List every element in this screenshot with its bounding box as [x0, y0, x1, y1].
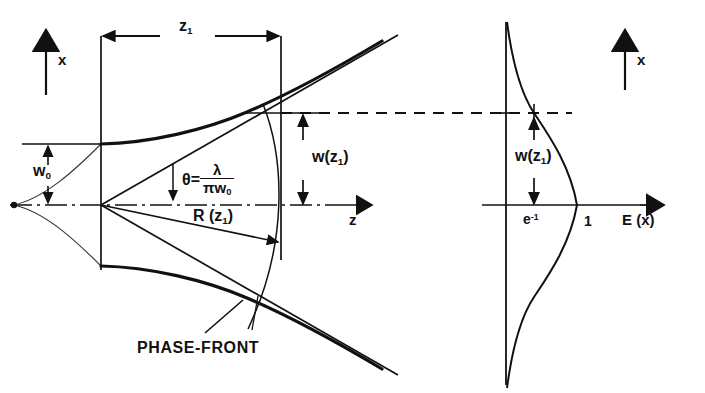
divergence-asymptote-upper: [101, 35, 398, 205]
radius-of-curvature-arrow: [101, 205, 278, 242]
e-inverse-exponent: -1: [531, 212, 539, 222]
w-z1-left-main: w(z: [312, 148, 338, 165]
radius-label-tail: ): [228, 207, 233, 224]
optical-axis: [10, 202, 372, 208]
w-z1-left-sub: 1: [338, 156, 344, 167]
profile-x-axis-label: x: [637, 52, 645, 67]
w-z1-label-right: w(z1): [515, 148, 552, 164]
divergence-numerator: λ: [200, 162, 234, 178]
z1-dimension-label: z1: [179, 18, 193, 34]
w-z1-right-sub: 1: [541, 155, 547, 166]
radius-label-main: R (z: [193, 207, 222, 224]
divergence-equation: θ= λ πw0: [182, 163, 234, 197]
w0-label-sub: 0: [45, 170, 51, 181]
beam-envelope-upper: [101, 41, 382, 144]
w0-label-main: w: [33, 162, 45, 179]
e-inverse-base: e: [523, 211, 531, 227]
radius-of-curvature-label: R (z1): [193, 208, 233, 224]
w0-label: w0: [33, 163, 51, 179]
phase-front-leader-1: [205, 300, 243, 333]
figure-linework: [0, 0, 705, 393]
waist-tail-lower: [14, 205, 101, 266]
radius-label-sub: 1: [222, 215, 228, 226]
divergence-denominator-main: πw: [203, 179, 226, 196]
z1-label-main: z: [179, 17, 187, 34]
z1-label-sub: 1: [187, 25, 193, 36]
divergence-fraction: λ πw0: [200, 162, 234, 196]
e-inverse-tick-label: e-1: [523, 212, 539, 226]
w-z1-right-main: w(z: [515, 147, 541, 164]
phase-front-arc: [248, 104, 279, 329]
divergence-denominator: πw0: [200, 178, 234, 197]
left-x-axis-label: x: [58, 52, 66, 67]
waist-tail-upper: [14, 144, 101, 205]
z-axis-label: z: [349, 212, 357, 227]
w-z1-left-tail: ): [343, 148, 348, 165]
phase-front-caption: PHASE-FRONT: [137, 340, 259, 356]
w-z1-right-tail: ): [546, 147, 551, 164]
gaussian-beam-figure: x z1 w0 θ= λ πw0 R (z1) w(z1) z PHASE-FR…: [0, 0, 705, 393]
w-z1-label-left: w(z1): [312, 149, 349, 165]
divergence-denominator-sub: 0: [226, 187, 231, 197]
profile-e-axis-label: E (x): [622, 212, 655, 227]
theta-symbol: θ=: [182, 172, 200, 188]
unity-tick-label: 1: [584, 214, 592, 228]
